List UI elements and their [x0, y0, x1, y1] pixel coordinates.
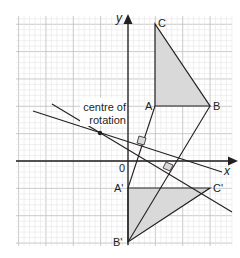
- x-axis-label: x: [223, 164, 231, 178]
- right-angle-marker-1: [137, 136, 146, 145]
- vertex-label-b: B: [213, 100, 220, 112]
- vertex-label-a: A: [145, 100, 153, 112]
- segment-a-a-prime: [128, 106, 155, 188]
- annotation-centre-of: centre of: [83, 101, 127, 113]
- vertex-label-b-prime: B': [113, 236, 122, 248]
- y-axis-label: y: [115, 11, 123, 25]
- centre-of-rotation-point: [98, 131, 102, 135]
- rotation-diagram: y x 0 C A B A' C' B' centre of rotation: [0, 0, 240, 258]
- vertex-label-c-prime: C': [213, 182, 223, 194]
- origin-label: 0: [119, 162, 125, 174]
- vertex-label-a-prime: A': [114, 182, 123, 194]
- triangle-a-prime-b-prime-c-prime: [128, 188, 210, 242]
- annotation-rotation: rotation: [89, 114, 126, 126]
- vertex-label-c: C: [158, 17, 166, 29]
- grid: [16, 16, 232, 246]
